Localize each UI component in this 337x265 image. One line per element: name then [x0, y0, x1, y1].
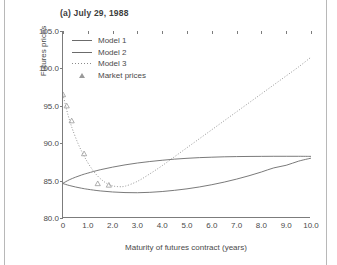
legend-item-label: Model 3 [98, 59, 126, 68]
page-left-rule [4, 0, 5, 265]
dotted-line-icon [72, 59, 92, 68]
x-axis-tick-mark [311, 31, 312, 34]
legend-item: Model 3 [72, 59, 146, 68]
x-axis-tick-mark [237, 31, 238, 34]
figure-panel: (a) July 29, 1988 80.085.090.095.0100.01… [0, 0, 337, 265]
legend-item: Model 1 [72, 36, 146, 45]
x-axis-tick-label: 3.0 [132, 221, 143, 230]
y-axis-tick-label: 90.0 [43, 139, 59, 148]
solid-line-icon [72, 36, 92, 45]
x-axis-tick-mark [137, 31, 138, 34]
solid-line-icon [72, 48, 92, 57]
x-axis-tick-label: 6.0 [206, 221, 217, 230]
x-axis-tick-mark [212, 31, 213, 34]
market-price-marker [69, 118, 74, 123]
x-axis-tick-mark [88, 31, 89, 34]
legend-item-label: Market prices [98, 71, 146, 80]
y-axis-tick-mark [60, 218, 63, 219]
x-axis-tick-label: 4.0 [157, 221, 168, 230]
x-axis-tick-label: 0 [61, 221, 65, 230]
chart-legend: Model 1Model 2Model 3Market prices [72, 36, 146, 80]
triangle-marker-icon [72, 71, 92, 80]
y-axis-tick-mark [60, 181, 63, 182]
x-axis-tick-label: 8.0 [256, 221, 267, 230]
x-axis-tick-label: 2.0 [107, 221, 118, 230]
x-axis-tick-mark [63, 31, 64, 34]
market-price-marker [63, 92, 66, 97]
y-axis-tick-mark [60, 68, 63, 69]
x-axis-tick-label: 7.0 [231, 221, 242, 230]
y-axis-tick-mark [60, 143, 63, 144]
chart-title: (a) July 29, 1988 [60, 8, 129, 18]
legend-item-label: Model 2 [98, 48, 126, 57]
x-axis-tick-mark [162, 31, 163, 34]
y-axis-tick-mark [60, 106, 63, 107]
legend-item-label: Model 1 [98, 36, 126, 45]
x-axis-tick-label: 9.0 [281, 221, 292, 230]
series-line [63, 156, 311, 183]
x-axis-tick-label: 1.0 [82, 221, 93, 230]
series-line [63, 158, 311, 193]
y-axis-tick-label: 85.0 [43, 176, 59, 185]
x-axis-tick-mark [113, 31, 114, 34]
y-axis-tick-label: 80.0 [43, 214, 59, 223]
x-axis-tick-mark [286, 31, 287, 34]
x-axis-tick-label: 5.0 [181, 221, 192, 230]
x-axis-tick-label: 10.0 [303, 221, 319, 230]
x-axis-tick-mark [187, 31, 188, 34]
page-right-rule [326, 0, 327, 265]
x-axis-tick-mark [261, 31, 262, 34]
legend-item: Market prices [72, 71, 146, 80]
market-price-marker [95, 181, 100, 186]
y-axis-label: Futures prices [39, 11, 48, 91]
y-axis-tick-label: 95.0 [43, 101, 59, 110]
legend-item: Model 2 [72, 48, 146, 57]
x-axis-label: Maturity of futures contract (years) [62, 243, 310, 252]
